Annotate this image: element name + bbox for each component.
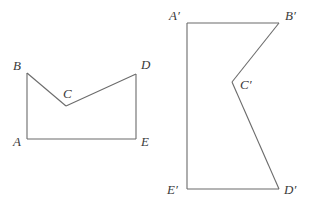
image-pentagon: A′ B′ C′ D′ E′	[166, 8, 296, 197]
vertex-label-d-prime: D′	[283, 182, 296, 197]
vertex-label-e: E	[140, 134, 149, 149]
diagram-canvas: A B C D E A′ B′ C′ D′ E′	[0, 0, 316, 207]
edge-cd	[66, 74, 136, 106]
vertex-label-c-prime: C′	[240, 77, 252, 92]
edge-b-prime-c-prime	[232, 23, 279, 82]
vertex-label-c: C	[63, 86, 72, 101]
edge-c-prime-d-prime	[232, 82, 279, 189]
original-pentagon: A B C D E	[12, 57, 151, 149]
vertex-label-b-prime: B′	[285, 8, 296, 23]
vertex-label-a-prime: A′	[168, 8, 180, 23]
vertex-label-e-prime: E′	[166, 182, 178, 197]
vertex-label-a: A	[12, 134, 21, 149]
vertex-label-b: B	[13, 58, 21, 73]
edge-bc	[27, 73, 66, 106]
vertex-label-d: D	[140, 57, 151, 72]
